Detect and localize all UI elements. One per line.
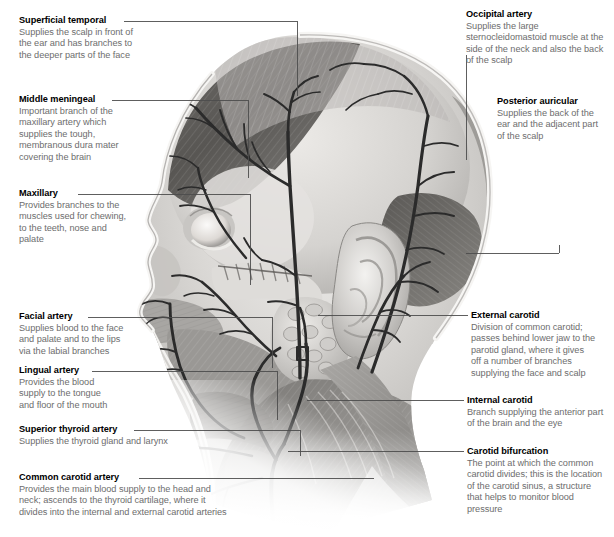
callout-title: Common carotid artery bbox=[19, 471, 259, 483]
callout-body: The point at which the common carotid di… bbox=[467, 458, 614, 516]
callout-body: Provides the blood supply to the tongue … bbox=[19, 377, 139, 412]
callout-middle-meningeal: Middle meningeal Important branch of the… bbox=[19, 93, 147, 163]
callout-title: External carotid bbox=[471, 309, 614, 321]
callout-title: Superficial temporal bbox=[19, 14, 151, 26]
callout-body: Important branch of the maxillary artery… bbox=[19, 106, 147, 164]
callout-carotid-bifurcation: Carotid bifurcation The point at which t… bbox=[467, 445, 614, 515]
callout-body: Branch supplying the anterior part of th… bbox=[467, 407, 614, 430]
callout-body: Supplies the back of the ear and the adj… bbox=[497, 108, 614, 143]
callout-title: Lingual artery bbox=[19, 364, 139, 376]
callout-posterior-auricular: Posterior auricular Supplies the back of… bbox=[497, 95, 614, 142]
callout-title: Internal carotid bbox=[467, 394, 614, 406]
callout-maxillary: Maxillary Provides branches to the muscl… bbox=[19, 187, 149, 246]
callout-title: Occipital artery bbox=[466, 8, 612, 20]
callout-body: Supplies the scalp in front of the ear a… bbox=[19, 27, 151, 62]
callout-title: Carotid bifurcation bbox=[467, 445, 614, 457]
callout-title: Posterior auricular bbox=[497, 95, 614, 107]
callout-internal-carotid: Internal carotid Branch supplying the an… bbox=[467, 394, 614, 430]
callout-common-carotid: Common carotid artery Provides the main … bbox=[19, 471, 259, 518]
callout-title: Maxillary bbox=[19, 187, 149, 199]
callout-facial-artery: Facial artery Supplies blood to the face… bbox=[19, 310, 153, 357]
artery-head-neck-diagram: Superficial temporal Supplies the scalp … bbox=[0, 0, 614, 537]
callout-title: Middle meningeal bbox=[19, 93, 147, 105]
callout-body: Supplies blood to the face and palate an… bbox=[19, 323, 153, 358]
callout-body: Provides the main blood supply to the he… bbox=[19, 484, 259, 519]
callout-body: Supplies the thyroid gland and larynx bbox=[19, 436, 219, 448]
callout-body: Division of common carotid; passes behin… bbox=[471, 322, 614, 380]
callout-title: Superior thyroid artery bbox=[19, 423, 219, 435]
callout-superficial-temporal: Superficial temporal Supplies the scalp … bbox=[19, 14, 151, 61]
callout-body: Provides branches to the muscles used fo… bbox=[19, 200, 149, 246]
callout-external-carotid: External carotid Division of common caro… bbox=[471, 309, 614, 379]
callout-lingual-artery: Lingual artery Provides the blood supply… bbox=[19, 364, 139, 411]
callout-superior-thyroid: Superior thyroid artery Supplies the thy… bbox=[19, 423, 219, 447]
callout-body: Supplies the large sternocleidomastoid m… bbox=[466, 21, 612, 67]
callout-title: Facial artery bbox=[19, 310, 153, 322]
callout-occipital-artery: Occipital artery Supplies the large ster… bbox=[466, 8, 612, 67]
